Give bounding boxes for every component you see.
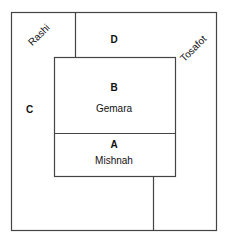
outer-box xyxy=(12,13,217,231)
region-d-letter: D xyxy=(110,34,117,45)
region-b-letter: B xyxy=(110,82,117,93)
gemara-label: Gemara xyxy=(96,103,132,114)
region-a-letter: A xyxy=(110,139,117,150)
mishnah-label: Mishnah xyxy=(95,155,133,166)
region-c-letter: C xyxy=(26,104,33,115)
